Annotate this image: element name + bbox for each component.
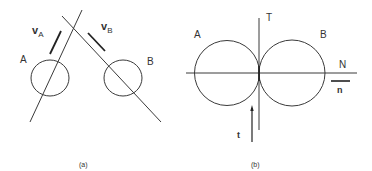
- tangent-arrowhead-icon: [250, 105, 253, 111]
- panel-b-caption: (b): [251, 161, 260, 169]
- panel-a: vA vB A B (a): [20, 10, 161, 169]
- body-a-label: A: [194, 29, 201, 40]
- panel-b: T A B N n t (b): [186, 12, 357, 169]
- panel-a-caption: (a): [79, 161, 88, 169]
- body-b-label: B: [147, 56, 154, 67]
- normal-vector-label: n: [337, 85, 343, 95]
- velocity-b-label: vB: [101, 20, 112, 35]
- velocity-a-label: vA: [32, 24, 44, 39]
- body-b-circle: [104, 60, 142, 96]
- velocity-b-arrow: [88, 33, 105, 51]
- body-a-label: A: [20, 54, 27, 65]
- tangent-axis-label: T: [266, 12, 272, 23]
- diagram-canvas: vA vB A B (a) T A B N n t (b): [0, 0, 372, 171]
- normal-axis-label: N: [339, 59, 346, 70]
- tangent-vector-label: t: [237, 130, 240, 140]
- velocity-a-arrow: [50, 31, 61, 54]
- body-b-label: B: [320, 29, 327, 40]
